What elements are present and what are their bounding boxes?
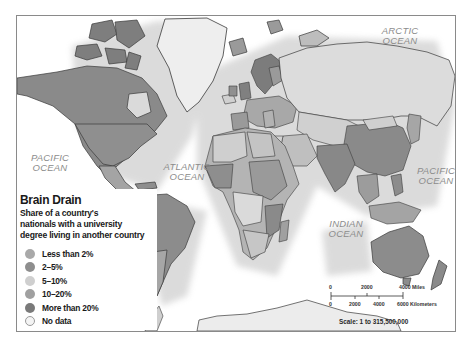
- scale-km-4000: 4000: [373, 301, 385, 307]
- legend-item: 10–20%: [25, 288, 99, 302]
- circle-swatch-icon: [25, 303, 35, 313]
- circle-swatch-icon: [25, 289, 35, 299]
- legend-item: Less than 2%: [25, 247, 99, 261]
- legend-subtitle: Share of a country's nationals with a un…: [20, 208, 160, 241]
- legend-item: 2–5%: [25, 261, 99, 275]
- ocean-label-arctic: ARCTIC OCEAN: [375, 26, 425, 46]
- ocean-label-atlantic: ATLANTIC OCEAN: [157, 162, 217, 182]
- legend-item: More than 20%: [25, 301, 99, 315]
- circle-swatch-icon: [25, 249, 35, 259]
- legend-items: Less than 2% 2–5% 5–10% 10–20% More than…: [25, 247, 99, 328]
- scale-miles-2000: 2000: [361, 284, 373, 290]
- circle-swatch-icon: [25, 276, 35, 286]
- scale-ruler-icon: [313, 274, 456, 314]
- legend-item: 5–10%: [25, 274, 99, 288]
- scale-miles-0: 0: [329, 284, 332, 290]
- legend-item: No data: [25, 315, 99, 329]
- scale-km-0: 0: [329, 301, 332, 307]
- scale-bar: 0 2000 4000 Miles 0 2000 4000 6000 Kilom…: [313, 274, 456, 332]
- ocean-label-pacific-west: PACIFIC OCEAN: [27, 153, 73, 173]
- ocean-label-pacific-east: PACIFIC OCEAN: [413, 166, 456, 186]
- map-legend: Brain Drain Share of a country's nationa…: [17, 189, 157, 330]
- circle-swatch-icon: [25, 316, 35, 326]
- scale-ratio: Scale: 1 to 315,500,000: [339, 318, 408, 325]
- circle-swatch-icon: [25, 262, 35, 272]
- world-map: ARCTIC OCEAN PACIFIC OCEAN ATLANTIC OCEA…: [16, 15, 456, 332]
- scale-miles-4000: 4000 Miles: [399, 284, 425, 290]
- scale-km-6000: 6000 Kilometers: [397, 301, 437, 307]
- ocean-label-indian: INDIAN OCEAN: [321, 219, 371, 239]
- scale-km-2000: 2000: [349, 301, 361, 307]
- legend-title: Brain Drain: [20, 193, 81, 207]
